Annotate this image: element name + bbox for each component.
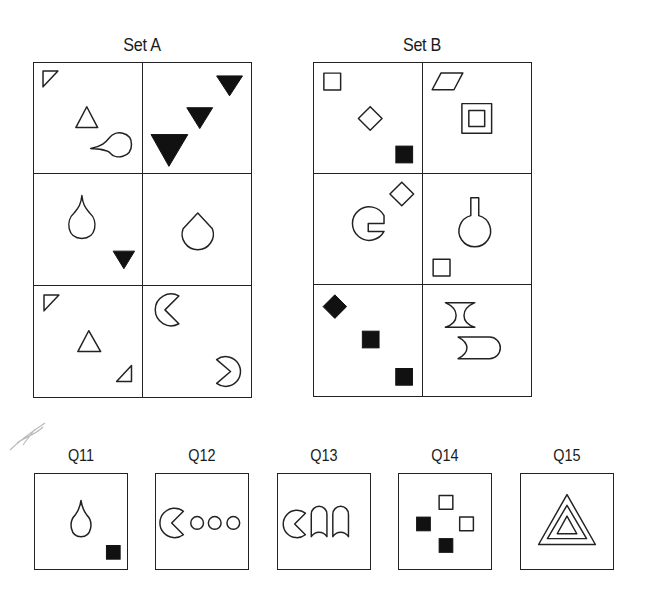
- black-square-icon: [106, 545, 120, 559]
- teardrop-up-icon: [71, 500, 91, 536]
- small-right-triangle-br-icon: [117, 365, 132, 381]
- q13-box[interactable]: [277, 473, 371, 570]
- arch-icon: [311, 506, 327, 536]
- black-triangle-small-icon: [216, 76, 242, 96]
- set-b-cell-2-1: [314, 174, 423, 285]
- hourglass-bar-icon: [445, 303, 474, 328]
- set-b-grid: [313, 62, 532, 397]
- teardrop-left-icon: [91, 133, 132, 157]
- parallelogram-icon: [432, 73, 463, 90]
- diamond-icon: [390, 182, 414, 206]
- circle-icon: [191, 517, 204, 530]
- triangle-icon: [76, 107, 98, 128]
- black-square-icon: [396, 146, 413, 163]
- q14-box[interactable]: [398, 473, 492, 570]
- black-square-icon: [439, 539, 453, 553]
- set-a-cell-1-2: [143, 63, 252, 174]
- bullet-shape-icon: [458, 337, 500, 359]
- black-square-icon: [417, 517, 431, 531]
- black-diamond-icon: [323, 295, 347, 319]
- set-a-grid: [33, 62, 252, 398]
- arch-icon: [333, 506, 349, 536]
- set-a-title: Set A: [100, 34, 185, 56]
- set-b-cell-1-2: [423, 63, 532, 174]
- set-a-cell-2-2: [143, 174, 252, 285]
- square-icon: [460, 517, 474, 531]
- nested-squares-icon: [461, 104, 491, 134]
- pacman-right-icon: [160, 508, 183, 537]
- set-b-cell-3-1: [314, 285, 423, 396]
- teardrop-up-icon: [69, 196, 95, 239]
- square-icon: [433, 259, 450, 276]
- q12-label: Q12: [162, 446, 242, 466]
- small-right-triangle-icon: [43, 71, 58, 87]
- circle-icon: [208, 517, 221, 530]
- set-a-cell-3-1: [34, 286, 143, 397]
- drop-cone-icon: [182, 213, 213, 250]
- pacman-left-icon: [216, 356, 240, 386]
- q15-label: Q15: [527, 446, 607, 466]
- nested-triangles-icon: [539, 495, 596, 545]
- square-icon: [324, 73, 341, 90]
- black-triangle-medium-icon: [186, 108, 212, 129]
- q14-label: Q14: [405, 446, 485, 466]
- flask-icon: [458, 198, 490, 247]
- black-square-icon: [396, 368, 413, 385]
- q13-label: Q13: [284, 446, 364, 466]
- black-square-icon: [362, 331, 379, 348]
- set-b-cell-1-1: [314, 63, 423, 174]
- diamond-icon: [358, 107, 382, 131]
- black-triangle-large-icon: [151, 135, 188, 167]
- set-b-title: Set B: [380, 34, 465, 56]
- q11-box[interactable]: [34, 473, 128, 570]
- q15-box[interactable]: [520, 473, 614, 570]
- notched-circle-icon: [352, 207, 384, 241]
- q12-box[interactable]: [155, 473, 249, 570]
- small-right-triangle-icon: [44, 295, 59, 311]
- square-icon: [439, 496, 453, 510]
- set-a-cell-2-1: [34, 174, 143, 285]
- circle-icon: [227, 517, 240, 530]
- pencil-scribble: [5, 415, 65, 455]
- pacman-right-icon: [155, 294, 179, 326]
- triangle-icon: [78, 330, 101, 351]
- set-b-cell-2-2: [423, 174, 532, 285]
- set-a-cell-1-1: [34, 63, 143, 174]
- pacman-right-icon: [283, 510, 305, 537]
- set-a-cell-3-2: [143, 286, 252, 397]
- set-b-cell-3-2: [423, 285, 532, 396]
- black-triangle-icon: [113, 251, 134, 269]
